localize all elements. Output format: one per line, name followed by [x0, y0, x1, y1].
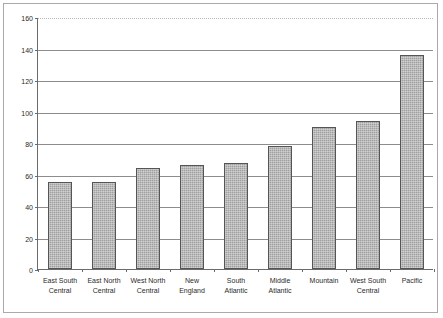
- y-tick-label-60: 60: [25, 172, 33, 179]
- bar: [224, 163, 249, 269]
- bar: [400, 55, 425, 269]
- bar-series: [38, 18, 433, 269]
- x-tick-mark: [258, 269, 259, 272]
- y-tick-label-40: 40: [25, 204, 33, 211]
- plot-wrapper: 020406080100120140160 East SouthCentralE…: [4, 4, 439, 314]
- bar-slot: [214, 18, 258, 269]
- y-tick-label-120: 120: [21, 78, 33, 85]
- bar-slot: [170, 18, 214, 269]
- x-tick-label: Pacific: [386, 276, 438, 286]
- bar: [92, 182, 117, 269]
- bar-slot: [126, 18, 170, 269]
- chart-frame: 020406080100120140160 East SouthCentralE…: [3, 3, 438, 313]
- x-tick-mark: [170, 269, 171, 272]
- x-tick-mark: [38, 269, 39, 272]
- bar: [268, 146, 293, 269]
- x-tick-mark: [82, 269, 83, 272]
- bar: [312, 127, 337, 269]
- x-tick-mark: [434, 269, 435, 272]
- bar-slot: [390, 18, 434, 269]
- x-tick-mark: [126, 269, 127, 272]
- x-tick-mark: [214, 269, 215, 272]
- x-tick-mark: [346, 269, 347, 272]
- x-tick-mark: [302, 269, 303, 272]
- x-tick-mark: [390, 269, 391, 272]
- x-tick-label-line: Atlantic: [254, 286, 306, 296]
- y-tick-label-80: 80: [25, 141, 33, 148]
- bar: [136, 168, 161, 269]
- y-tick-label-20: 20: [25, 235, 33, 242]
- bar: [356, 121, 381, 269]
- y-tick-label-140: 140: [21, 46, 33, 53]
- plot-area: 020406080100120140160 East SouthCentralE…: [37, 18, 433, 270]
- x-tick-label-line: Pacific: [386, 276, 438, 286]
- bar: [48, 182, 73, 269]
- bar-slot: [302, 18, 346, 269]
- bar-slot: [82, 18, 126, 269]
- bar-slot: [38, 18, 82, 269]
- y-tick-label-160: 160: [21, 15, 33, 22]
- x-tick-label-line: Central: [342, 286, 394, 296]
- bar-slot: [346, 18, 390, 269]
- bar: [180, 165, 205, 269]
- y-tick-label-100: 100: [21, 109, 33, 116]
- y-tick-label-0: 0: [29, 267, 33, 274]
- bar-slot: [258, 18, 302, 269]
